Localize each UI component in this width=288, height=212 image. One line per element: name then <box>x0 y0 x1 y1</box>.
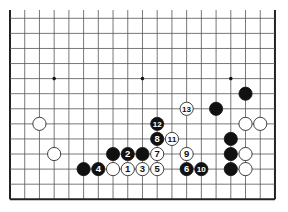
stone-icon <box>33 117 46 130</box>
move-number: 2 <box>125 148 130 159</box>
white-stone <box>106 163 119 176</box>
white-stone <box>239 147 252 160</box>
star-point-icon <box>229 77 233 81</box>
stone-icon <box>239 87 252 100</box>
white-stone: 13 <box>180 102 193 115</box>
white-stone: 11 <box>165 132 178 145</box>
white-stone: 7 <box>151 147 164 160</box>
stone-icon <box>254 117 267 130</box>
white-stone: 5 <box>151 163 164 176</box>
black-stone <box>209 102 222 115</box>
stone-icon <box>48 147 61 160</box>
black-stone: 8 <box>151 132 164 145</box>
stone-icon <box>209 102 222 115</box>
black-stone <box>224 132 237 145</box>
star-point-icon <box>141 77 145 81</box>
go-board: 41356102798111213 <box>0 0 288 212</box>
stone-icon <box>106 163 119 176</box>
move-number: 1 <box>125 163 131 174</box>
move-number: 12 <box>153 120 163 129</box>
white-stone: 3 <box>136 163 149 176</box>
white-stone <box>239 117 252 130</box>
white-stone <box>48 147 61 160</box>
black-stone <box>136 147 149 160</box>
white-stone <box>239 163 252 176</box>
stone-icon <box>239 117 252 130</box>
move-number: 7 <box>155 148 160 159</box>
star-point-icon <box>52 77 56 81</box>
white-stone <box>254 117 267 130</box>
black-stone <box>224 147 237 160</box>
move-number: 3 <box>140 163 145 174</box>
move-number: 10 <box>197 165 207 174</box>
black-stone: 12 <box>151 117 164 130</box>
black-stone: 6 <box>180 163 193 176</box>
move-number: 4 <box>96 163 102 174</box>
stone-icon <box>224 163 237 176</box>
stone-icon <box>106 147 119 160</box>
white-stone <box>33 117 46 130</box>
move-number: 9 <box>184 148 189 159</box>
move-number: 8 <box>155 133 160 144</box>
stone-icon <box>224 147 237 160</box>
stone-icon <box>224 132 237 145</box>
move-number: 11 <box>167 135 177 144</box>
move-number: 6 <box>184 163 189 174</box>
black-stone <box>224 163 237 176</box>
stones-layer: 41356102798111213 <box>33 87 267 176</box>
move-number: 13 <box>182 105 192 114</box>
black-stone <box>106 147 119 160</box>
white-stone: 1 <box>121 163 134 176</box>
black-stone <box>239 87 252 100</box>
stone-icon <box>136 147 149 160</box>
stone-icon <box>239 147 252 160</box>
black-stone: 2 <box>121 147 134 160</box>
stone-icon <box>77 163 90 176</box>
black-stone: 10 <box>195 163 208 176</box>
white-stone: 9 <box>180 147 193 160</box>
black-stone: 4 <box>92 163 105 176</box>
move-number: 5 <box>155 163 161 174</box>
black-stone <box>77 163 90 176</box>
stone-icon <box>239 163 252 176</box>
